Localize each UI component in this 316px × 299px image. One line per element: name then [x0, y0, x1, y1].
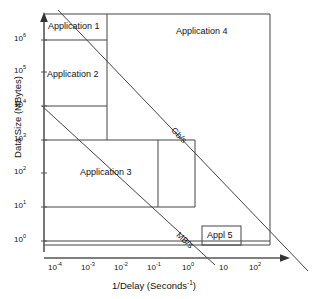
region-label-application-1: Application 1: [48, 22, 100, 31]
region-label-application-2: Application 2: [47, 70, 99, 79]
y-tick-label-1e4: 104: [14, 101, 26, 109]
x-tick-label-1e2: 102: [249, 264, 261, 272]
x-axis-title-end: ): [193, 280, 196, 291]
y-axis-title: Data Size (MBytes): [12, 76, 23, 158]
y-tick-exp-1e0: 0: [23, 233, 26, 239]
x-tick-label-1e-1: 10-1: [147, 264, 161, 272]
chart-figure: Data Size (MBytes) 106 105 104 103 102 1…: [0, 0, 316, 299]
axis-lines: [40, 12, 290, 262]
x-tick-exp-1e0: 0: [191, 261, 194, 267]
x-axis-title: 1/Delay (Seconds-1): [112, 281, 196, 291]
x-tick-exp-1e-4: -4: [57, 261, 62, 267]
x-tick-label-1e-2: 10-2: [114, 264, 128, 272]
application-4-boundary: [44, 14, 270, 245]
region-label-application-4: Application 4: [176, 27, 228, 36]
y-tick-label-1e0: 100: [14, 236, 26, 244]
y-axis-title-wrapper: Data Size (MBytes): [7, 69, 25, 165]
plot-area: [0, 0, 316, 299]
y-tick-label-1e3: 103: [14, 135, 26, 143]
x-tick-label-1e-4: 10-4: [48, 264, 62, 272]
x-tick-exp-1e-1: -1: [156, 261, 161, 267]
y-tick-exp-1e3: 3: [23, 132, 26, 138]
y-tick-exp-1e2: 2: [23, 165, 26, 171]
x-tick-exp-1e-2: -2: [123, 261, 128, 267]
region-boundaries: [44, 14, 270, 245]
region-label-application-5: Appl 5: [207, 231, 233, 240]
x-tick-label-1e0: 100: [182, 264, 194, 272]
x-axis-title-main: 1/Delay (Seconds: [112, 280, 187, 291]
x-tick-exp-1e-3: -3: [90, 261, 95, 267]
y-tick-exp-1e6: 6: [23, 32, 26, 38]
y-tick-label-1e5: 105: [14, 67, 26, 75]
x-axis-arrowhead: [280, 254, 290, 262]
y-tick-label-1e1: 101: [14, 202, 26, 210]
y-tick-exp-1e1: 1: [23, 199, 26, 205]
y-tick-exp-1e4: 4: [23, 98, 26, 104]
y-tick-label-1e6: 106: [14, 35, 26, 43]
y-tick-exp-1e5: 5: [23, 64, 26, 70]
region-label-application-3: Application 3: [80, 168, 132, 177]
x-tick-label-1e1: 10: [219, 264, 228, 272]
x-tick-exp-1e2: 2: [258, 261, 261, 267]
x-tick-label-1e-3: 10-3: [81, 264, 95, 272]
y-tick-label-1e2: 102: [14, 168, 26, 176]
